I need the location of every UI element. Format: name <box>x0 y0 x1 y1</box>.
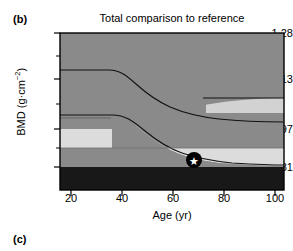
x-axis-major-ticks <box>71 190 275 196</box>
y-axis-major-ticks <box>54 33 60 167</box>
subject-measurement-marker: ★ <box>186 152 202 168</box>
star-icon: ★ <box>189 155 199 168</box>
band-bottom-dark <box>60 167 284 190</box>
panel-label-c: (c) <box>13 233 26 245</box>
figure-panel-b: (b) Total comparison to reference BMD (g… <box>0 0 293 251</box>
plot-area: ★ <box>0 0 293 251</box>
